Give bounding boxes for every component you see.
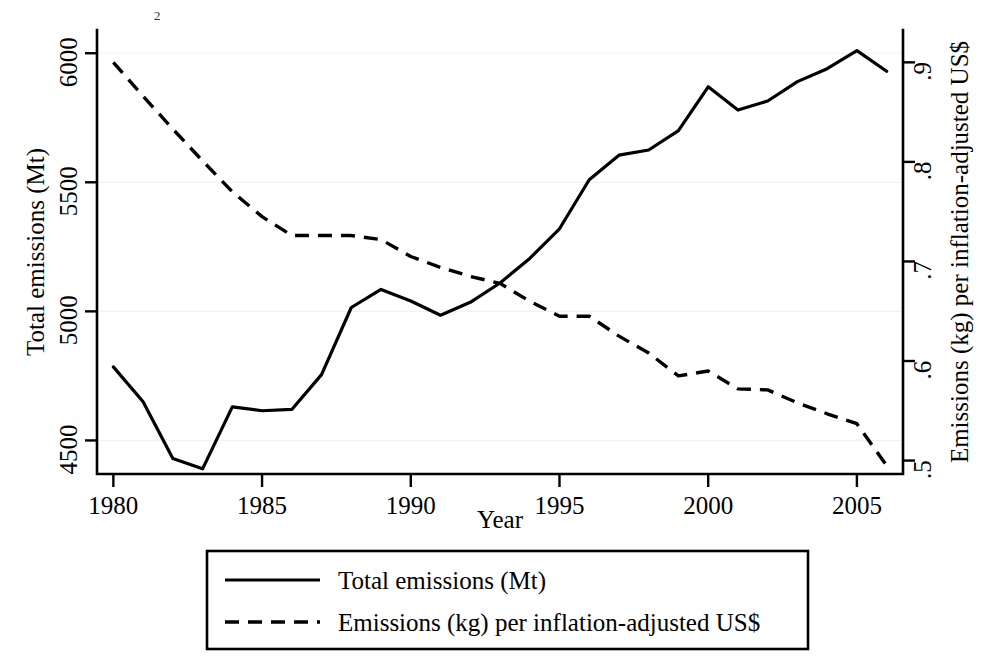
right-tick-label: .9 bbox=[909, 62, 936, 81]
y-axis-title: Total emissions (Mt) bbox=[22, 148, 50, 356]
series-emissions-intensity bbox=[113, 62, 886, 465]
x-tick-label: 1990 bbox=[386, 492, 436, 519]
truncated-title-fragment: ₂ bbox=[153, 0, 161, 21]
left-tick-label: 5500 bbox=[55, 166, 82, 216]
x-axis-ticks bbox=[113, 474, 857, 487]
y2-axis-title: Emissions (kg) per inflation-adjusted US… bbox=[946, 41, 974, 463]
grid-lines bbox=[97, 53, 903, 440]
right-tick-label: .8 bbox=[909, 162, 936, 181]
left-tick-label: 5000 bbox=[55, 295, 82, 345]
left-axis-ticks bbox=[85, 53, 97, 440]
x-tick-label: 2005 bbox=[832, 492, 882, 519]
legend-label-emissions-intensity: Emissions (kg) per inflation-adjusted US… bbox=[338, 609, 760, 637]
plot-frame bbox=[97, 30, 903, 474]
x-tick-label: 1985 bbox=[237, 492, 287, 519]
chart-canvas: ₂ 4500500055006000 .5.6.7.8.9 1980198519… bbox=[0, 0, 992, 665]
chart-figure: ₂ 4500500055006000 .5.6.7.8.9 1980198519… bbox=[0, 0, 992, 665]
chart-legend: Total emissions (Mt) Emissions (kg) per … bbox=[207, 551, 808, 649]
x-tick-label: 1995 bbox=[534, 492, 584, 519]
legend-label-total-emissions: Total emissions (Mt) bbox=[338, 567, 546, 595]
left-tick-label: 4500 bbox=[55, 424, 82, 474]
series-total-emissions bbox=[113, 51, 886, 469]
right-tick-label: .6 bbox=[909, 361, 936, 380]
right-axis-tick-labels: .5.6.7.8.9 bbox=[909, 62, 936, 479]
x-tick-label: 2000 bbox=[683, 492, 733, 519]
left-axis-tick-labels: 4500500055006000 bbox=[55, 37, 82, 474]
left-tick-label: 6000 bbox=[55, 37, 82, 87]
right-tick-label: .7 bbox=[909, 261, 936, 280]
x-axis-title: Year bbox=[477, 506, 524, 533]
x-tick-label: 1980 bbox=[88, 492, 138, 519]
right-tick-label: .5 bbox=[909, 460, 936, 479]
